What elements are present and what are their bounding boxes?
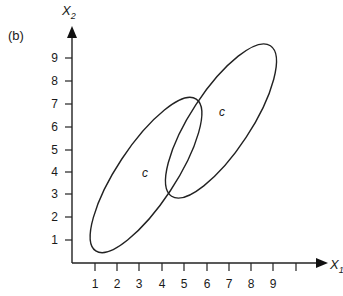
svg-text:9: 9 bbox=[51, 51, 58, 65]
svg-text:2: 2 bbox=[114, 277, 121, 291]
lower-ellipse-label: c bbox=[142, 166, 148, 180]
panel-label: (b) bbox=[8, 28, 24, 43]
svg-text:4: 4 bbox=[51, 165, 58, 179]
svg-text:6: 6 bbox=[51, 120, 58, 134]
svg-text:1: 1 bbox=[92, 277, 99, 291]
svg-text:7: 7 bbox=[51, 97, 58, 111]
svg-text:2: 2 bbox=[51, 210, 58, 224]
svg-text:3: 3 bbox=[136, 277, 143, 291]
svg-text:6: 6 bbox=[204, 277, 211, 291]
x-ticks bbox=[95, 263, 296, 271]
upper-ellipse-label: c bbox=[219, 105, 225, 119]
svg-text:4: 4 bbox=[159, 277, 166, 291]
y-ticks bbox=[65, 58, 72, 240]
ellipse-overlap-diagram: (b) X2 X1 1 2 3 4 5 6 7 8 9 bbox=[0, 0, 343, 296]
x-axis-label: X1 bbox=[329, 257, 343, 275]
x-tick-labels: 1 2 3 4 5 6 7 8 9 bbox=[92, 277, 277, 291]
x-axis-arrow-icon bbox=[316, 258, 328, 268]
upper-right-ellipse bbox=[147, 29, 296, 212]
y-tick-labels: 1 2 3 4 5 6 7 8 9 bbox=[51, 51, 58, 247]
svg-text:8: 8 bbox=[51, 74, 58, 88]
svg-text:1: 1 bbox=[51, 233, 58, 247]
svg-text:8: 8 bbox=[248, 277, 255, 291]
svg-text:9: 9 bbox=[270, 277, 277, 291]
svg-text:5: 5 bbox=[51, 143, 58, 157]
y-axis-arrow-icon bbox=[67, 26, 77, 38]
svg-text:5: 5 bbox=[181, 277, 188, 291]
svg-text:3: 3 bbox=[51, 187, 58, 201]
y-axis-label: X2 bbox=[61, 3, 76, 21]
svg-text:7: 7 bbox=[226, 277, 233, 291]
